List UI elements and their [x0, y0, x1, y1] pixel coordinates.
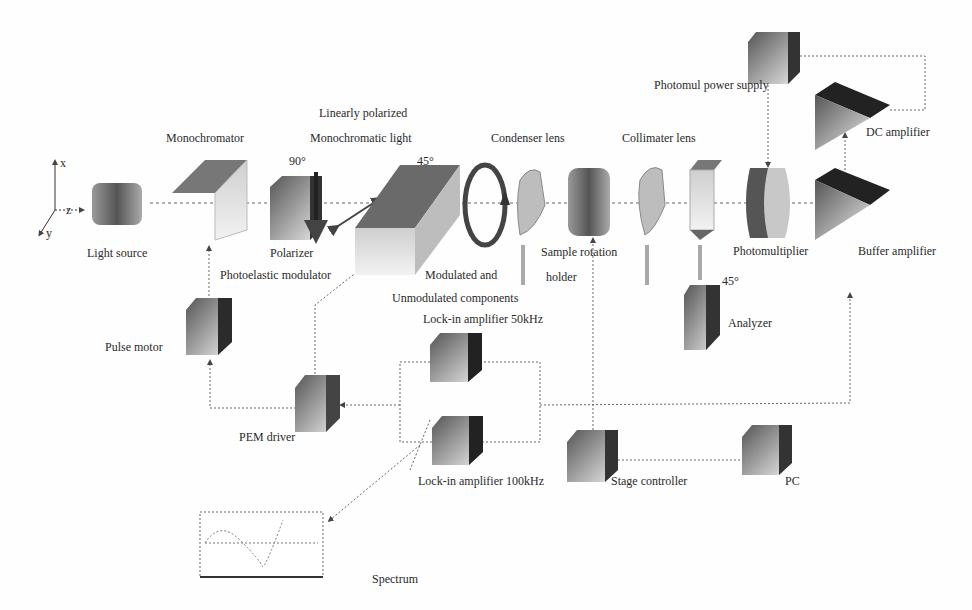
coordinate-axes-icon	[40, 162, 82, 234]
spectrum-plot-icon	[200, 512, 323, 577]
photomultiplier-label: Photomultiplier	[733, 244, 808, 258]
condenser-lens-label: Condenser lens	[491, 131, 565, 145]
lockin-50khz-icon	[430, 333, 482, 382]
linearly-polarized-label: Linearly polarized	[319, 106, 407, 120]
buffer-amplifier-label: Buffer amplifier	[858, 244, 936, 258]
axis-x-label: x	[60, 156, 66, 170]
buffer-amplifier-icon	[815, 168, 890, 240]
photomul-power-supply-icon	[748, 32, 800, 84]
collimater-lens-label: Collimater lens	[622, 131, 696, 145]
pem-driver-icon	[295, 375, 340, 432]
lockin-100khz-label: Lock-in amplifier 100kHz	[418, 474, 544, 488]
diagram-canvas: x z y Light source Monochromator Linearl…	[0, 0, 972, 610]
photoelastic-modulator-label: Photoelastic modulator	[220, 268, 331, 282]
pc-label: PC	[785, 474, 800, 488]
condenser-lens-icon	[518, 170, 546, 235]
axis-y-label: y	[46, 226, 52, 240]
light-source-label: Light source	[87, 246, 147, 260]
connection-lines	[0, 0, 972, 610]
sample-rotation-holder-icon	[568, 168, 610, 236]
polarizer-angle-label: 90°	[289, 154, 306, 168]
monochromator-icon	[172, 160, 247, 240]
dc-amplifier-icon	[815, 82, 890, 150]
light-source-icon	[92, 183, 142, 225]
unmodulated-components-label: Unmodulated components	[392, 291, 518, 305]
pulse-motor-label: Pulse motor	[105, 340, 163, 354]
lockin-100khz-icon	[432, 416, 483, 465]
axis-z-label: z	[66, 203, 71, 217]
spectrum-label: Spectrum	[372, 572, 418, 586]
collimater-lens-icon	[639, 168, 665, 235]
stage-controller-label: Stage controller	[611, 474, 687, 488]
analyzer-label: Analyzer	[728, 316, 772, 330]
analyzer-angle-label: 45°	[722, 274, 739, 288]
analyzer-icon	[684, 285, 720, 350]
pem-angle-label: 45°	[417, 154, 434, 168]
pc-icon	[742, 425, 792, 475]
polarizer-icon	[270, 172, 322, 240]
analyzer-prism-icon	[690, 160, 722, 240]
sample-rotation-label: Sample rotation	[541, 245, 617, 259]
photoelastic-modulator-icon	[355, 165, 460, 275]
photomultiplier-icon	[746, 168, 790, 238]
dc-amplifier-label: DC amplifier	[866, 125, 930, 139]
pem-driver-label: PEM driver	[239, 430, 295, 444]
holder-label: holder	[546, 270, 577, 284]
monochromatic-light-label: Monochromatic light	[310, 131, 412, 145]
modulated-polarization-icon	[465, 165, 510, 245]
lockin-50khz-label: Lock-in amplifier 50kHz	[423, 312, 543, 326]
photomul-power-supply-label: Photomul power supply	[654, 78, 769, 92]
modulated-and-label: Modulated and	[425, 268, 497, 282]
polarizer-label: Polarizer	[270, 246, 313, 260]
pulse-motor-icon	[186, 298, 232, 355]
monochromator-label: Monochromator	[166, 131, 244, 145]
